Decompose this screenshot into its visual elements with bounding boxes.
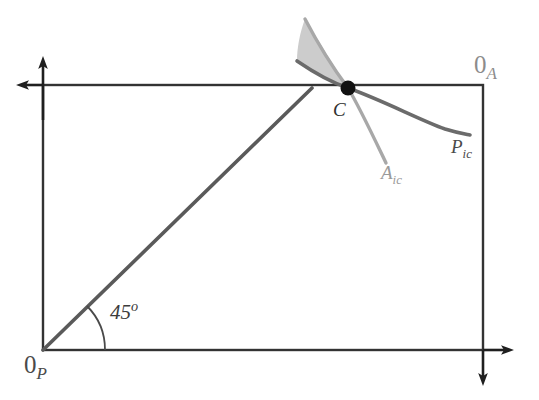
origin-a-label: 0A [474,52,497,82]
axis-arrows-top-left [16,56,48,120]
axis-arrows-bottom-right [478,345,514,386]
diagram-canvas [0,0,539,400]
edgeworth-box-rect [43,85,483,350]
angle-45-label: 45o [110,299,138,323]
contract-point-c-label: C [333,100,346,119]
angle-arc [87,306,105,350]
diagonal-45-line [43,88,312,350]
edgeworth-box-diagram: 0P 0A C Pic Aic 45o [0,0,539,400]
curve-aic-label: Aic [381,163,402,187]
contract-point-c-dot [341,81,356,96]
origin-p-label: 0P [24,352,47,382]
curve-pic-label: Pic [451,137,472,161]
